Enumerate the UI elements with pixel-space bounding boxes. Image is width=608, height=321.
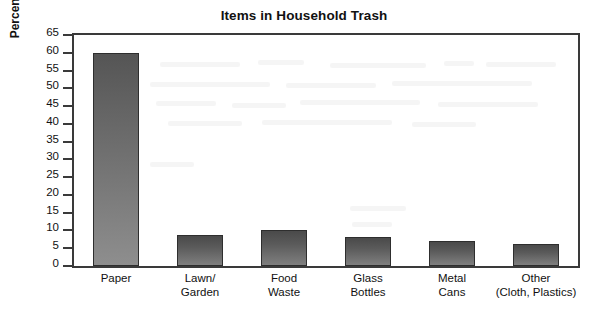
y-tick-mark (63, 70, 72, 72)
y-tick-mark (63, 229, 72, 231)
x-tick-label: Other(Cloth, Plastics) (494, 272, 578, 299)
y-tick-label: 20 (46, 186, 59, 198)
y-tick: 15 (0, 212, 72, 213)
x-tick-label-line2: Bottles (326, 286, 410, 300)
y-tick-mark (63, 123, 72, 125)
bar[interactable] (177, 235, 223, 266)
y-tick: 45 (0, 105, 72, 106)
x-tick-label-line1: Food (271, 272, 297, 284)
chart-title: Items in Household Trash (0, 8, 608, 23)
bar[interactable] (261, 230, 307, 266)
x-tick-label: Paper (74, 272, 158, 286)
plot-area (74, 35, 578, 266)
x-tick-label: FoodWaste (242, 272, 326, 299)
x-tick-label: Lawn/Garden (158, 272, 242, 299)
bar-group (345, 35, 391, 266)
y-tick-mark (63, 247, 72, 249)
x-tick-label-line1: Paper (101, 272, 132, 284)
x-tick-label-line2: (Cloth, Plastics) (494, 286, 578, 300)
x-tick-label-line1: Other (522, 272, 551, 284)
y-tick-label: 5 (53, 239, 59, 251)
y-tick-label: 10 (46, 221, 59, 233)
y-tick-mark (63, 194, 72, 196)
bar-chart: Items in Household Trash Percent by Mass… (0, 0, 608, 321)
y-tick-label: 55 (46, 62, 59, 74)
y-tick-label: 30 (46, 150, 59, 162)
y-tick-mark (63, 87, 72, 89)
bar-group (177, 35, 223, 266)
x-tick-label-line1: Glass (353, 272, 382, 284)
x-tick-label-line1: Metal (438, 272, 466, 284)
x-tick-label-line2: Waste (242, 286, 326, 300)
y-tick-label: 35 (46, 133, 59, 145)
y-axis-label: Percent by Mass (8, 0, 23, 79)
y-tick: 30 (0, 158, 72, 159)
y-tick-mark (63, 141, 72, 143)
y-tick: 10 (0, 229, 72, 230)
bar-group (93, 35, 139, 266)
y-tick: 55 (0, 70, 72, 71)
y-tick-label: 60 (46, 44, 59, 56)
y-tick-label: 25 (46, 168, 59, 180)
bar-group (429, 35, 475, 266)
y-tick-label: 45 (46, 97, 59, 109)
y-tick: 0 (0, 265, 72, 266)
bar-group (513, 35, 559, 266)
y-tick: 65 (0, 34, 72, 35)
y-tick-mark (63, 265, 72, 267)
bar-group (261, 35, 307, 266)
y-tick-mark (63, 176, 72, 178)
y-tick-label: 0 (53, 257, 59, 269)
bar[interactable] (429, 241, 475, 266)
x-tick-label: GlassBottles (326, 272, 410, 299)
bar[interactable] (93, 53, 139, 266)
bar[interactable] (345, 237, 391, 266)
x-tick-label-line2: Cans (410, 286, 494, 300)
y-tick-mark (63, 34, 72, 36)
bar[interactable] (513, 244, 559, 266)
y-tick: 50 (0, 87, 72, 88)
y-tick: 35 (0, 141, 72, 142)
y-tick-label: 40 (46, 115, 59, 127)
x-tick-label-line1: Lawn/ (185, 272, 216, 284)
y-tick: 5 (0, 247, 72, 248)
y-tick-mark (63, 105, 72, 107)
y-tick: 25 (0, 176, 72, 177)
y-tick-label: 15 (46, 204, 59, 216)
x-tick-label: MetalCans (410, 272, 494, 299)
y-tick-label: 65 (46, 26, 59, 38)
y-tick: 40 (0, 123, 72, 124)
y-tick: 20 (0, 194, 72, 195)
x-tick-label-line2: Garden (158, 286, 242, 300)
y-tick-mark (63, 52, 72, 54)
y-tick-mark (63, 158, 72, 160)
y-tick-label: 50 (46, 79, 59, 91)
y-tick-mark (63, 212, 72, 214)
y-tick: 60 (0, 52, 72, 53)
